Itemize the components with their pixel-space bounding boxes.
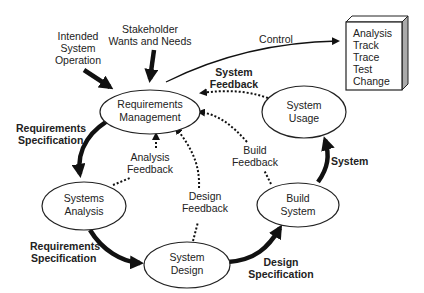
requirements-process-diagram: Requirements Management System Usage Sys… bbox=[0, 0, 424, 293]
intended-operation-label: Intended System Operation bbox=[55, 30, 101, 66]
svg-text:Design: Design bbox=[263, 256, 298, 268]
box-item: Analysis bbox=[353, 27, 392, 39]
node-system-usage[interactable]: System Usage bbox=[262, 86, 346, 138]
box-item: Trace bbox=[353, 51, 380, 63]
node-build-system[interactable]: Build System bbox=[257, 183, 339, 227]
node-label: Build bbox=[286, 192, 310, 204]
design-feedback-label: Design Feedback bbox=[182, 190, 229, 214]
intended-operation-arrow bbox=[84, 70, 110, 87]
system-arrow bbox=[318, 140, 328, 182]
build-feedback-arrow-lower bbox=[264, 170, 271, 184]
svg-text:Operation: Operation bbox=[55, 54, 101, 66]
svg-text:Specification: Specification bbox=[18, 134, 83, 146]
system-feedback-label: System Feedback bbox=[210, 66, 259, 90]
svg-text:Feedback: Feedback bbox=[210, 78, 259, 90]
node-label: Usage bbox=[289, 112, 320, 124]
svg-text:Feedback: Feedback bbox=[232, 156, 279, 168]
system-flow-label: System bbox=[331, 155, 368, 167]
svg-text:Intended: Intended bbox=[58, 30, 99, 42]
svg-text:Build: Build bbox=[243, 144, 267, 156]
node-requirements-management[interactable]: Requirements Management bbox=[100, 90, 200, 134]
svg-text:Wants and Needs: Wants and Needs bbox=[108, 35, 191, 47]
box-item: Change bbox=[353, 75, 390, 87]
build-feedback-arrow-upper bbox=[199, 112, 247, 142]
box-item: Track bbox=[353, 39, 380, 51]
svg-text:System: System bbox=[60, 42, 95, 54]
node-label: Requirements bbox=[117, 98, 182, 110]
node-label: Design bbox=[171, 264, 204, 276]
control-box: Analysis Track Trace Test Change bbox=[346, 16, 408, 90]
svg-text:Requirements: Requirements bbox=[30, 240, 100, 252]
svg-text:Feedback: Feedback bbox=[127, 163, 174, 175]
node-systems-analysis[interactable]: Systems Analysis bbox=[42, 182, 126, 230]
node-system-design[interactable]: System Design bbox=[144, 242, 230, 288]
svg-text:Stakeholder: Stakeholder bbox=[122, 23, 179, 35]
analysis-feedback-arrow-lower bbox=[113, 178, 130, 185]
svg-text:Analysis: Analysis bbox=[130, 151, 169, 163]
node-label: Systems bbox=[64, 192, 104, 204]
svg-text:Feedback: Feedback bbox=[182, 202, 229, 214]
req-spec-label-1: Requirements Specification bbox=[16, 122, 86, 146]
svg-text:System: System bbox=[215, 66, 252, 78]
node-label: System bbox=[280, 205, 315, 217]
design-feedback-arrow-upper bbox=[176, 128, 199, 188]
node-label: System bbox=[169, 251, 204, 263]
stakeholder-arrow bbox=[150, 50, 154, 79]
design-spec-label: Design Specification bbox=[248, 256, 313, 280]
node-label: Analysis bbox=[64, 205, 103, 217]
system-feedback-arrow bbox=[201, 91, 268, 98]
req-spec-label-2: Requirements Specification bbox=[30, 240, 100, 264]
svg-text:Specification: Specification bbox=[31, 252, 96, 264]
analysis-feedback-label: Analysis Feedback bbox=[127, 151, 174, 175]
svg-text:Requirements: Requirements bbox=[16, 122, 86, 134]
svg-text:Specification: Specification bbox=[248, 268, 313, 280]
stakeholder-label: Stakeholder Wants and Needs bbox=[108, 23, 191, 47]
build-feedback-label: Build Feedback bbox=[232, 144, 279, 168]
box-item: Test bbox=[353, 63, 372, 75]
design-feedback-arrow-lower bbox=[193, 222, 198, 241]
node-label: Management bbox=[119, 111, 180, 123]
node-label: System bbox=[286, 99, 321, 111]
svg-text:Design: Design bbox=[189, 190, 222, 202]
control-label: Control bbox=[259, 33, 293, 45]
